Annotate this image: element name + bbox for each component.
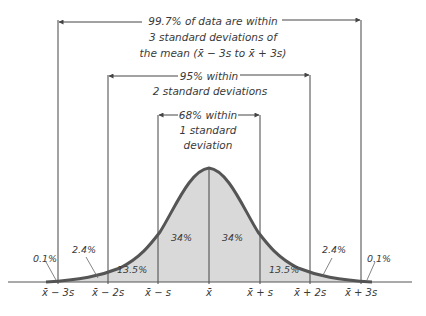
pct-left-0to1: 34% xyxy=(171,232,192,243)
tick-plus-2s: x̄ + 2s xyxy=(294,287,326,298)
pct-left-2to3: 2.4% xyxy=(72,244,96,255)
tick-mean: x̄ xyxy=(206,287,212,298)
range1-line1: 68% within xyxy=(176,108,240,122)
pct-right-0to1: 34% xyxy=(222,232,243,243)
tick-minus-s: x̄ − s xyxy=(145,287,171,298)
range3-line2: 3 standard deviations of xyxy=(120,30,306,44)
tick-minus-2s: x̄ − 2s xyxy=(92,287,124,298)
tick-plus-3s: x̄ + 3s xyxy=(345,287,377,298)
range1-line3: deviation xyxy=(166,138,250,152)
range3-line1: 99.7% of data are within xyxy=(140,14,286,28)
pct-right-1to2: 13.5% xyxy=(269,264,299,275)
range2-line2: 2 standard deviations xyxy=(140,84,280,98)
pct-left-tail: 0.1% xyxy=(33,253,57,264)
pct-right-tail: 0.1% xyxy=(367,253,391,264)
range2-line1: 95% within xyxy=(176,69,242,83)
tick-minus-3s: x̄ − 3s xyxy=(42,287,74,298)
range1-line2: 1 standard xyxy=(166,123,250,137)
tick-plus-s: x̄ + s xyxy=(247,287,273,298)
pct-left-1to2: 13.5% xyxy=(117,264,147,275)
pct-right-2to3: 2.4% xyxy=(322,244,346,255)
range3-line3: the mean (x̄ − 3s to x̄ + 3s) xyxy=(120,46,306,60)
